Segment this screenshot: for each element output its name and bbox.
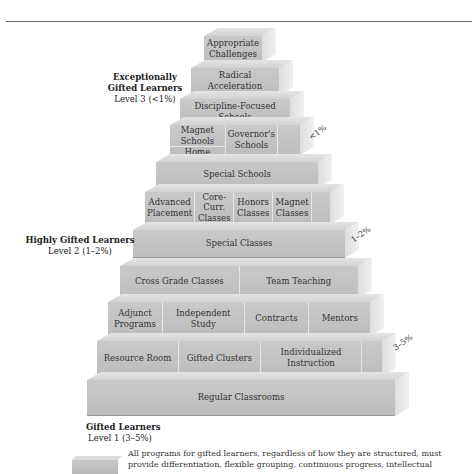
legend-block-icon (72, 460, 118, 474)
tier-radical-acceleration: Radical Acceleration (191, 68, 279, 95)
cell-honors-classes: Honors Classes (234, 192, 273, 223)
footnote-text: All programs for gifted learners, regard… (128, 449, 468, 471)
top-rule (6, 21, 472, 22)
level1-label: Gifted Learners Level 1 (3–5%) (86, 422, 166, 444)
cell-cross-grade-classes: Cross Grade Classes (120, 266, 240, 297)
cell-independent-study: Independent Study (163, 302, 245, 335)
tier-cross-grade-team: Cross Grade Classes Team Teaching (120, 266, 358, 298)
level3-title-line1: Exceptionally (113, 72, 177, 82)
tier-regular-classrooms: Regular Classrooms (87, 380, 395, 416)
tier-class-options: Advanced Placement Core-Curr. Classes Ho… (145, 192, 330, 224)
cell-magnet-schools: Magnet Schools (170, 125, 225, 147)
cell-appropriate-challenges: Appropriate Challenges (204, 36, 262, 61)
cell-gifted-clusters: Gifted Clusters (179, 341, 261, 375)
tier-schools-alternatives: Magnet Schools Home Schooling Governor's… (170, 125, 300, 155)
cell-radical-acceleration: Radical Acceleration (191, 68, 279, 94)
cell-contracts: Contracts (245, 302, 310, 335)
cell-resource-room: Resource Room (97, 341, 179, 375)
cell-advanced-placement: Advanced Placement (145, 192, 195, 223)
level2-title: Highly Gifted Learners (25, 235, 134, 245)
level2-subtitle: Level 2 (1–2%) (48, 246, 112, 256)
tier-appropriate-challenges: Appropriate Challenges (204, 36, 262, 62)
cell-mentors: Mentors (309, 302, 370, 335)
cell-team-teaching: Team Teaching (240, 266, 359, 297)
tier-classroom-supports: Resource Room Gifted Clusters Individual… (97, 341, 382, 376)
level3-title-line2: Gifted Learners (108, 83, 183, 93)
tier-special-classes: Special Classes (133, 230, 345, 258)
cell-core-curr-classes: Core-Curr. Classes (195, 192, 234, 223)
cell-adjunct-programs: Adjunct Programs (108, 302, 163, 335)
cell-special-classes: Special Classes (133, 230, 345, 257)
level3-label: Exceptionally Gifted Learners Level 3 (<… (100, 72, 190, 105)
cell-individualized-instruction: Individualized Instruction (261, 341, 362, 375)
cell-magnet-classes: Magnet Classes (273, 192, 312, 223)
tier-enrichment-options: Adjunct Programs Independent Study Contr… (108, 302, 370, 336)
level3-subtitle: Level 3 (<1%) (114, 94, 175, 104)
cell-governors-schools: Governor's Schools (226, 125, 278, 154)
cell-regular-classrooms: Regular Classrooms (87, 380, 395, 415)
level2-label: Highly Gifted Learners Level 2 (1–2%) (20, 235, 140, 257)
level1-subtitle: Level 1 (3–5%) (86, 433, 152, 443)
level1-title: Gifted Learners (86, 422, 161, 432)
cell-special-schools: Special Schools (156, 162, 318, 187)
